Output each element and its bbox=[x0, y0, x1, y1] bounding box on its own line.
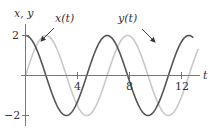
y-of-t-annotation: y(t) bbox=[117, 12, 137, 25]
x-of-t-annotation: x(t) bbox=[55, 12, 74, 25]
y-tick-label-neg2: −2 bbox=[4, 109, 20, 122]
x-tick-label-8: 8 bbox=[126, 80, 133, 93]
x-tick-label-4: 4 bbox=[74, 80, 81, 93]
parametric-chart: x, y t 2 −2 4 8 12 x(t) y(t) bbox=[0, 0, 215, 136]
x-tick-label-12: 12 bbox=[175, 80, 189, 93]
y-axis-label: x, y bbox=[14, 7, 34, 20]
y-of-t-arrow bbox=[142, 29, 155, 42]
y-tick-label-2: 2 bbox=[12, 29, 19, 42]
t-axis-label: t bbox=[203, 69, 208, 82]
